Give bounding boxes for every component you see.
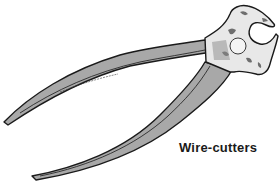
- figure-caption: Wire-cutters: [179, 140, 257, 155]
- pivot-rivet: [230, 38, 246, 54]
- figure-canvas: Wire-cutters: [0, 0, 279, 181]
